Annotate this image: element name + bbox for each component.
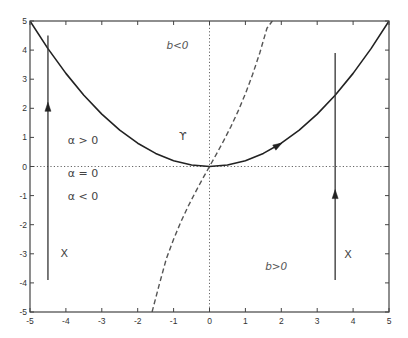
arrow-up-icon bbox=[332, 190, 338, 199]
annotation-label: ϒ bbox=[179, 130, 187, 143]
annotation-label: α = 0 bbox=[68, 167, 98, 180]
arrow-layer bbox=[45, 102, 338, 198]
annotation-label: X bbox=[344, 248, 352, 261]
chart-plot: b<0ϒα > 0α = 0α < 0XXb>0 -5-4-3-2-101234… bbox=[0, 0, 408, 338]
x-tick-label: 5 bbox=[387, 316, 392, 326]
x-tick-label: -4 bbox=[62, 316, 70, 326]
y-tick-label: 5 bbox=[22, 16, 27, 26]
y-tick-label: -2 bbox=[19, 220, 27, 230]
y-tick-label: -1 bbox=[19, 191, 27, 201]
y-tick-label: 1 bbox=[22, 132, 27, 142]
annotation-label: b>0 bbox=[265, 260, 287, 272]
annotation-label: α < 0 bbox=[68, 190, 98, 203]
y-tick-label: 4 bbox=[22, 45, 27, 55]
y-tick-label: -4 bbox=[19, 278, 27, 288]
x-tick-label: -5 bbox=[26, 316, 34, 326]
x-tick-label: 1 bbox=[243, 316, 248, 326]
annotation-layer: b<0ϒα > 0α = 0α < 0XXb>0 bbox=[61, 39, 353, 272]
x-tick-label: 4 bbox=[351, 316, 356, 326]
arrow-up-icon bbox=[45, 102, 51, 111]
arrow-right-icon bbox=[273, 143, 282, 150]
x-tick-label: -3 bbox=[98, 316, 106, 326]
annotation-label: X bbox=[61, 247, 69, 260]
y-tick-label: 2 bbox=[22, 103, 27, 113]
annotation-label: b<0 bbox=[166, 39, 188, 51]
y-tick-label: 0 bbox=[22, 162, 27, 172]
y-tick-label: -3 bbox=[19, 249, 27, 259]
x-tick-label: 3 bbox=[315, 316, 320, 326]
annotation-label: α > 0 bbox=[68, 134, 98, 147]
x-tick-label: 0 bbox=[207, 316, 212, 326]
x-tick-label: -2 bbox=[134, 316, 142, 326]
x-tick-label: 2 bbox=[279, 316, 284, 326]
y-tick-label: 3 bbox=[22, 74, 27, 84]
x-tick-label: -1 bbox=[170, 316, 178, 326]
y-tick-label: -5 bbox=[19, 307, 27, 317]
